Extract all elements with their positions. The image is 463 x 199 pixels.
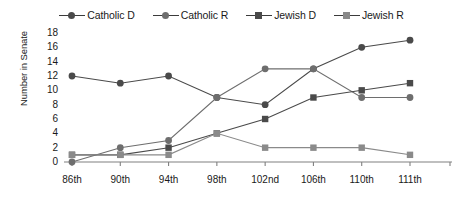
legend-label: Jewish R: [362, 10, 404, 21]
data-point-circle: [262, 65, 269, 72]
legend-item-jewish-r: Jewish R: [334, 10, 404, 21]
data-point-square: [310, 94, 316, 100]
legend-label: Jewish D: [274, 10, 316, 21]
y-axis-tick-labels: 024681012141618: [34, 29, 58, 168]
data-point-square: [165, 152, 171, 158]
y-axis-tick-label: 12: [36, 71, 58, 81]
data-point-square: [407, 80, 413, 86]
data-point-circle: [358, 94, 365, 101]
data-point-square: [165, 144, 171, 150]
data-point-circle: [69, 159, 76, 166]
data-point-circle: [165, 137, 172, 144]
data-point-square: [214, 130, 220, 136]
x-axis-tick-label: 86th: [45, 174, 99, 185]
y-axis-tick-label: 2: [36, 143, 58, 153]
y-axis-tick-label: 4: [36, 128, 58, 138]
series-line: [72, 83, 410, 155]
data-point-circle: [69, 73, 76, 80]
data-point-circle: [407, 94, 414, 101]
legend-marker-circle-icon: [153, 10, 179, 21]
legend-item-jewish-d: Jewish D: [246, 10, 316, 21]
x-axis-tick-label: 90th: [93, 174, 147, 185]
legend-item-catholic-d: Catholic D: [59, 10, 134, 21]
x-axis-tick-label: 102nd: [238, 174, 292, 185]
data-point-square: [262, 116, 268, 122]
line-chart: Catholic D Catholic R Jewish D Jewish R …: [0, 0, 463, 199]
series-jewish-r: [69, 130, 413, 158]
y-axis-tick-label: 14: [36, 57, 58, 67]
data-point-square: [310, 144, 316, 150]
x-axis-tick-label: 111th: [383, 174, 437, 185]
y-axis-tick-label: 8: [36, 100, 58, 110]
x-axis-tick-label: 110th: [335, 174, 389, 185]
y-axis-tick-label: 10: [36, 85, 58, 95]
data-point-circle: [117, 80, 124, 87]
legend-label: Catholic D: [87, 10, 134, 21]
x-axis-tick-label: 94th: [142, 174, 196, 185]
legend-label: Catholic R: [181, 10, 228, 21]
x-axis-tick-label: 106th: [286, 174, 340, 185]
legend-marker-square-icon: [334, 10, 360, 21]
y-axis-tick-label: 18: [36, 28, 58, 38]
data-point-circle: [407, 37, 414, 44]
y-axis-tick-label: 16: [36, 42, 58, 52]
legend-marker-square-icon: [246, 10, 272, 21]
data-point-circle: [165, 73, 172, 80]
data-point-circle: [213, 94, 220, 101]
y-axis-title: Number in Senate: [18, 19, 29, 119]
x-axis-tick-labels: 86th90th94th98th102nd106th110th111th: [64, 174, 452, 190]
plot-svg: [64, 29, 452, 168]
data-point-circle: [262, 101, 269, 108]
data-point-circle: [117, 144, 124, 151]
legend-marker-circle-icon: [59, 10, 85, 21]
x-axis-tick-label: 98th: [190, 174, 244, 185]
data-point-circle: [358, 44, 365, 51]
series-line: [72, 133, 410, 155]
y-axis-tick-label: 0: [36, 157, 58, 167]
series-line: [72, 40, 410, 105]
plot-area: [64, 29, 452, 168]
y-axis-tick-label: 6: [36, 114, 58, 124]
data-point-square: [117, 152, 123, 158]
data-point-square: [359, 87, 365, 93]
data-point-square: [359, 144, 365, 150]
data-point-square: [262, 144, 268, 150]
legend-item-catholic-r: Catholic R: [153, 10, 228, 21]
data-point-square: [69, 152, 75, 158]
data-point-square: [407, 152, 413, 158]
chart-legend: Catholic D Catholic R Jewish D Jewish R: [0, 6, 463, 24]
data-point-circle: [310, 65, 317, 72]
